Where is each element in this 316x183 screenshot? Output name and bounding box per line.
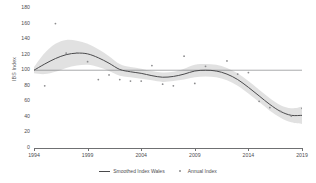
line-swatch-icon	[99, 171, 110, 172]
annual-index-point	[194, 83, 196, 85]
annual-index-point	[55, 23, 57, 25]
legend-label-annual: Annual Index	[188, 168, 217, 174]
chart-container: IBS Index 180160140120100806040200 19941…	[0, 0, 316, 183]
annual-index-point	[44, 85, 46, 87]
annual-index-point	[151, 65, 153, 67]
y-axis-tick-120: 120	[6, 52, 30, 57]
annual-index-point	[215, 70, 217, 72]
x-axis-tick-mark-2009	[195, 148, 196, 151]
x-axis-tick-2014: 2014	[243, 152, 255, 158]
y-axis-tick-40: 40	[6, 114, 30, 119]
annual-index-point	[290, 115, 292, 117]
legend-label-smoothed: Smoothed Index Wales	[113, 168, 165, 174]
x-axis-tick-2004: 2004	[135, 152, 147, 158]
y-axis-tick-0: 0	[6, 145, 30, 150]
y-axis-tick-180: 180	[6, 5, 30, 10]
confidence-band	[34, 40, 302, 124]
point-swatch-icon	[179, 170, 181, 172]
annual-index-point	[87, 61, 89, 63]
y-axis-tick-20: 20	[6, 130, 30, 135]
annual-index-point	[183, 55, 185, 57]
annual-index-point	[108, 74, 110, 76]
annual-index-point	[237, 73, 239, 75]
x-axis-tick-mark-1994	[34, 148, 35, 151]
annual-index-point	[280, 111, 282, 113]
y-axis-tick-160: 160	[6, 21, 30, 26]
y-axis-tick-140: 140	[6, 37, 30, 42]
annual-index-point	[65, 52, 67, 54]
annual-index-point	[162, 83, 164, 85]
y-axis-tick-labels: 180160140120100806040200	[4, 0, 30, 183]
annual-index-point	[248, 72, 250, 74]
legend-item-annual: Annual Index	[179, 168, 217, 174]
chart-svg	[34, 8, 302, 148]
legend-item-smoothed: Smoothed Index Wales	[99, 168, 165, 174]
x-axis-tick-mark-1999	[88, 148, 89, 151]
x-axis-tick-2009: 2009	[189, 152, 201, 158]
annual-index-point	[76, 52, 78, 54]
x-axis-tick-mark-2014	[248, 148, 249, 151]
y-axis-tick-60: 60	[6, 99, 30, 104]
y-axis-tick-100: 100	[6, 68, 30, 73]
annual-index-point	[172, 85, 174, 87]
annual-index-point	[258, 100, 260, 102]
annual-index-point	[97, 79, 99, 81]
x-axis-tick-mark-2004	[141, 148, 142, 151]
annual-index-point	[130, 80, 132, 82]
annual-index-point	[119, 79, 121, 81]
x-axis-tick-2019: 2019	[296, 152, 308, 158]
plot-area	[34, 8, 302, 148]
x-axis-line	[34, 148, 302, 149]
annual-index-point	[226, 60, 228, 62]
chart-legend: Smoothed Index Wales Annual Index	[0, 168, 316, 174]
x-axis-tick-1994: 1994	[28, 152, 40, 158]
x-axis-tick-1999: 1999	[82, 152, 94, 158]
y-axis-tick-80: 80	[6, 83, 30, 88]
x-axis-tick-mark-2019	[302, 148, 303, 151]
annual-index-point	[140, 80, 142, 82]
annual-index-point	[205, 65, 207, 67]
annual-index-point	[269, 107, 271, 109]
